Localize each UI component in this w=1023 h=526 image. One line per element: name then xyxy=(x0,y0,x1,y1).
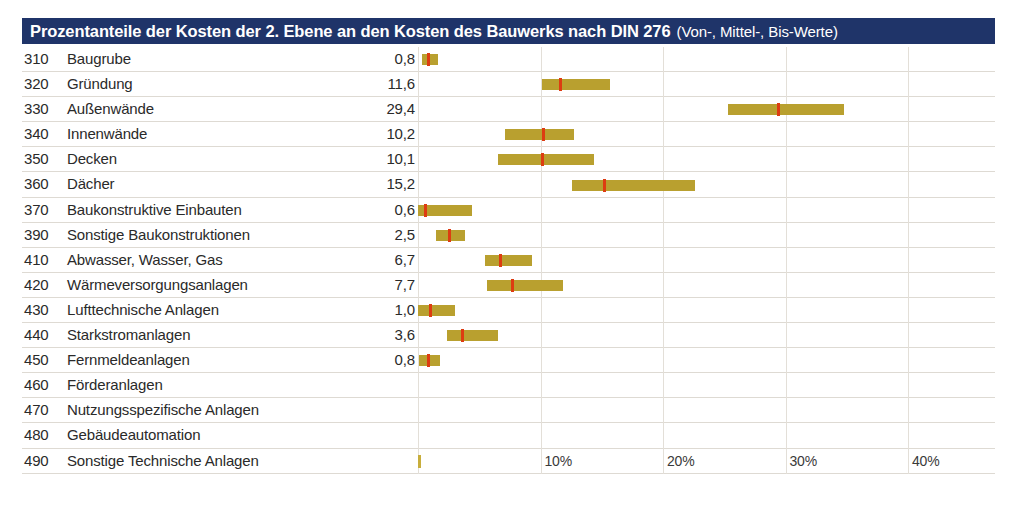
mean-marker xyxy=(541,153,544,166)
x-tick-label-40: 40% xyxy=(912,453,939,469)
row-label: Fernmeldeanlagen xyxy=(67,351,190,368)
row-label: Baukonstruktive Einbauten xyxy=(67,201,242,218)
row-code: 390 xyxy=(24,226,62,243)
range-bar xyxy=(728,104,844,115)
row-value: 0,6 xyxy=(292,201,415,218)
row-value: 0,8 xyxy=(292,50,415,67)
mean-marker xyxy=(499,254,502,267)
bar-track xyxy=(418,298,995,323)
row-value: 1,0 xyxy=(292,301,415,318)
row-value: 2,5 xyxy=(292,226,415,243)
row-label: Starkstromanlagen xyxy=(67,326,190,343)
row-value: 29,4 xyxy=(292,100,415,117)
row-value: 11,6 xyxy=(292,75,415,92)
row-code: 450 xyxy=(24,351,62,368)
row-code: 310 xyxy=(24,50,62,67)
mean-marker xyxy=(511,279,514,292)
bar-track xyxy=(418,198,995,223)
mean-marker xyxy=(461,329,464,342)
row-label: Gründung xyxy=(67,75,133,92)
row-label: Sonstige Technische Anlagen xyxy=(67,452,259,469)
row-code: 420 xyxy=(24,276,62,293)
x-tick-label-20: 20% xyxy=(667,453,694,469)
bar-track xyxy=(418,449,995,474)
mean-marker xyxy=(542,128,545,141)
row-code: 340 xyxy=(24,125,62,142)
row-label: Sonstige Baukonstruktionen xyxy=(67,226,250,243)
chart-title-bar: Prozentanteile der Kosten der 2. Ebene a… xyxy=(22,18,995,44)
row-label: Nutzungsspezifische Anlagen xyxy=(67,401,259,418)
row-label: Abwasser, Wasser, Gas xyxy=(67,251,223,268)
row-label: Förderanlagen xyxy=(67,376,163,393)
bar-track xyxy=(418,373,995,398)
bar-track xyxy=(418,248,995,273)
mean-marker xyxy=(429,304,432,317)
bar-track xyxy=(418,122,995,147)
row-code: 480 xyxy=(24,426,62,443)
range-bar xyxy=(498,154,595,165)
row-code: 470 xyxy=(24,401,62,418)
row-label: Decken xyxy=(67,150,117,167)
row-code: 360 xyxy=(24,175,62,192)
row-code: 320 xyxy=(24,75,62,92)
mean-marker xyxy=(448,229,451,242)
row-value: 7,7 xyxy=(292,276,415,293)
row-code: 490 xyxy=(24,452,62,469)
chart-title: Prozentanteile der Kosten der 2. Ebene a… xyxy=(30,22,670,41)
bar-track xyxy=(418,72,995,97)
zero-tick xyxy=(418,455,421,468)
mean-marker xyxy=(427,354,430,367)
row-label: Innenwände xyxy=(67,125,147,142)
row-label: Wärmeversorgungsanlagen xyxy=(67,276,248,293)
row-code: 440 xyxy=(24,326,62,343)
plot-area: 10%20%30%40% xyxy=(418,47,995,474)
bar-track xyxy=(418,348,995,373)
mean-marker xyxy=(559,78,562,91)
row-value: 0,8 xyxy=(292,351,415,368)
row-label: Dächer xyxy=(67,175,114,192)
row-value: 15,2 xyxy=(292,175,415,192)
range-bar xyxy=(447,330,497,341)
bar-track xyxy=(418,147,995,172)
bar-track xyxy=(418,398,995,423)
range-bar xyxy=(487,280,563,291)
row-code: 350 xyxy=(24,150,62,167)
bar-track xyxy=(418,424,995,449)
row-value: 6,7 xyxy=(292,251,415,268)
mean-marker xyxy=(427,53,430,66)
row-code: 330 xyxy=(24,100,62,117)
bar-track xyxy=(418,97,995,122)
row-label: Gebäudeautomation xyxy=(67,426,200,443)
bar-track xyxy=(418,223,995,248)
cost-group-table: 310Baugrube0,8320Gründung11,6330Außenwän… xyxy=(22,47,995,474)
row-label: Lufttechnische Anlagen xyxy=(67,301,219,318)
row-value: 3,6 xyxy=(292,326,415,343)
mean-marker xyxy=(777,103,780,116)
row-label: Baugrube xyxy=(67,50,131,67)
chart-page: Prozentanteile der Kosten der 2. Ebene a… xyxy=(0,0,1023,526)
mean-marker xyxy=(424,204,427,217)
row-code: 430 xyxy=(24,301,62,318)
x-tick-label-10: 10% xyxy=(545,453,572,469)
x-tick-label-30: 30% xyxy=(790,453,817,469)
row-value: 10,2 xyxy=(292,125,415,142)
chart-subtitle: (Von-, Mittel-, Bis-Werte) xyxy=(676,23,837,40)
range-bar xyxy=(505,129,574,140)
range-bar xyxy=(542,79,611,90)
row-code: 460 xyxy=(24,376,62,393)
bar-track xyxy=(418,273,995,298)
bar-track xyxy=(418,323,995,348)
mean-marker xyxy=(603,179,606,192)
range-bar xyxy=(572,180,695,191)
range-bar xyxy=(485,255,532,266)
bar-track xyxy=(418,173,995,198)
row-code: 370 xyxy=(24,201,62,218)
row-label: Außenwände xyxy=(67,100,154,117)
row-code: 410 xyxy=(24,251,62,268)
range-bar xyxy=(418,305,455,316)
row-value: 10,1 xyxy=(292,150,415,167)
bar-track xyxy=(418,47,995,72)
